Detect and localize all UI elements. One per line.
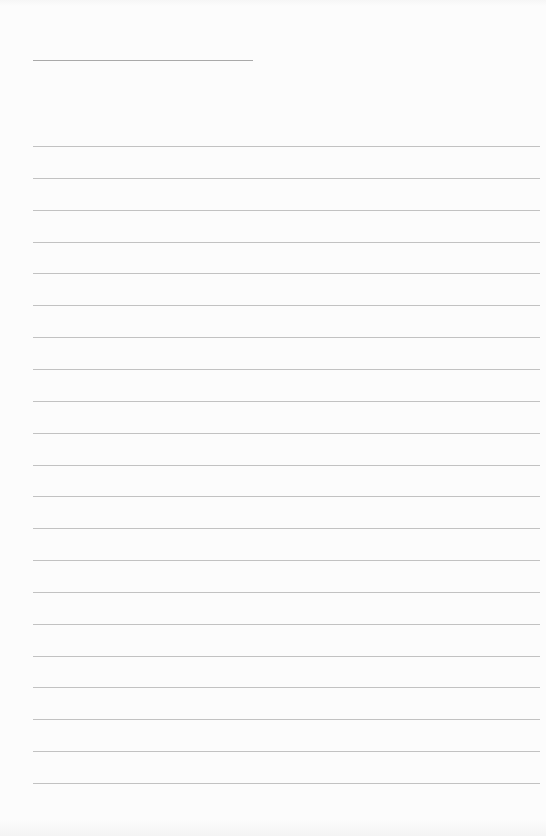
ruled-line [33,560,540,561]
ruled-line [33,210,540,211]
ruled-line [33,751,540,752]
title-line [33,60,253,61]
ruled-line [33,305,540,306]
ruled-line [33,528,540,529]
ruled-line [33,433,540,434]
ruled-line [33,465,540,466]
ruled-line [33,624,540,625]
ruled-line [33,719,540,720]
ruled-line [33,687,540,688]
ruled-line [33,783,540,784]
ruled-line [33,242,540,243]
ruled-line [33,337,540,338]
ruled-line [33,656,540,657]
ruled-line [33,401,540,402]
ruled-line [33,592,540,593]
ruled-line [33,146,540,147]
ruled-line [33,496,540,497]
ruled-line [33,178,540,179]
ruled-line [33,369,540,370]
ruled-line [33,273,540,274]
lined-paper-sheet [0,0,546,836]
